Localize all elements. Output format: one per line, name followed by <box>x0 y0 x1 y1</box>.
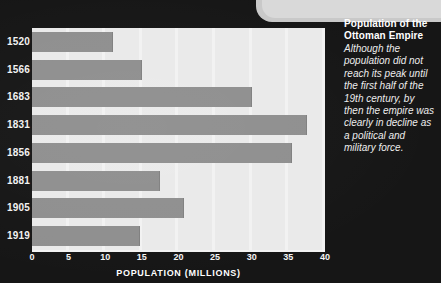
x-tick-label-15: 15 <box>137 252 147 262</box>
bar-1881 <box>32 171 160 191</box>
y-tick-label-1831: 1831 <box>0 115 30 135</box>
x-tick-label-0: 0 <box>29 252 34 262</box>
bar-row <box>32 226 325 246</box>
bar-row <box>32 115 325 135</box>
bar-row <box>32 171 325 191</box>
bar-1856 <box>32 143 292 163</box>
bar-row <box>32 60 325 80</box>
x-tick-label-10: 10 <box>100 252 110 262</box>
bar-1520 <box>32 32 113 52</box>
bar-row <box>32 198 325 218</box>
bar-row <box>32 143 325 163</box>
bar-1566 <box>32 60 142 80</box>
plot-area <box>32 28 325 250</box>
x-tick-label-5: 5 <box>66 252 71 262</box>
y-tick-label-1683: 1683 <box>0 87 30 107</box>
y-axis-year-labels: 15201566168318311856188119051919 <box>0 28 30 250</box>
y-tick-label-1520: 1520 <box>0 32 30 52</box>
x-tick-label-30: 30 <box>247 252 257 262</box>
bar-1831 <box>32 115 307 135</box>
bar-1905 <box>32 198 184 218</box>
y-tick-label-1856: 1856 <box>0 143 30 163</box>
y-tick-label-1905: 1905 <box>0 198 30 218</box>
bar-1919 <box>32 226 140 246</box>
caption-title: Population of the Ottoman Empire <box>344 18 436 42</box>
y-tick-label-1919: 1919 <box>0 226 30 246</box>
x-axis-ticks: 0510152025303540 <box>32 252 325 265</box>
caption-body: Although the population did not reach it… <box>344 43 436 155</box>
caption-block: Population of the Ottoman Empire Althoug… <box>344 18 436 155</box>
bar-chart: 15201566168318311856188119051919 0510152… <box>0 0 336 283</box>
y-tick-label-1881: 1881 <box>0 171 30 191</box>
x-tick-label-20: 20 <box>173 252 183 262</box>
y-tick-label-1566: 1566 <box>0 60 30 80</box>
bar-1683 <box>32 87 252 107</box>
x-tick-label-25: 25 <box>210 252 220 262</box>
bar-row <box>32 32 325 52</box>
x-axis-title: POPULATION (MILLIONS) <box>32 268 325 278</box>
x-tick-label-35: 35 <box>283 252 293 262</box>
x-tick-label-40: 40 <box>320 252 330 262</box>
bar-row <box>32 87 325 107</box>
infographic-page: 15201566168318311856188119051919 0510152… <box>0 0 441 283</box>
